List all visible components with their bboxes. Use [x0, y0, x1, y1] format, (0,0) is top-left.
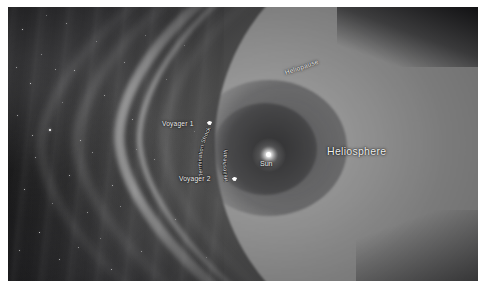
termination-shock-label: Termination Shock	[197, 126, 212, 177]
star	[194, 131, 195, 132]
heliosphere-illustration: Sun Voyager 1 Voyager 2 Heliosphere Heli…	[8, 7, 478, 281]
star	[175, 219, 176, 220]
star	[206, 257, 207, 258]
star	[96, 41, 97, 42]
star	[41, 54, 42, 55]
top-right-shadow	[337, 7, 478, 67]
star	[154, 159, 155, 160]
star	[35, 157, 36, 158]
star	[62, 102, 63, 103]
star	[46, 15, 47, 16]
star	[16, 67, 17, 68]
star	[184, 45, 185, 46]
heliosheath-label: Heliosheath	[221, 149, 229, 183]
star	[100, 238, 101, 239]
star	[87, 212, 88, 213]
bottom-right-shadow	[356, 210, 478, 281]
star	[145, 35, 146, 36]
star	[124, 62, 125, 63]
star	[49, 129, 51, 131]
star	[17, 115, 18, 116]
star	[52, 203, 53, 204]
star	[66, 23, 67, 24]
star	[136, 149, 137, 150]
star	[19, 250, 20, 251]
star	[120, 206, 121, 207]
star	[55, 69, 56, 70]
star	[166, 79, 167, 80]
star	[92, 152, 93, 153]
